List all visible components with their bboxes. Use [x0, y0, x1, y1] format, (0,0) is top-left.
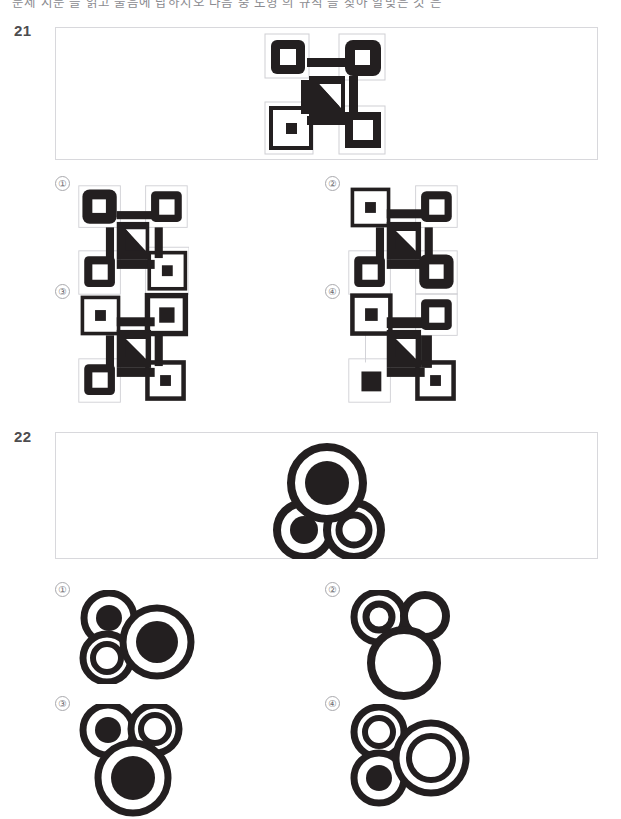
question-22-stem-box	[55, 432, 598, 559]
question-number-22: 22	[14, 428, 31, 445]
option-22-4-figure	[347, 704, 475, 819]
option-22-1-figure	[77, 590, 199, 684]
option-22-2-figure	[347, 590, 465, 700]
circles-option-22-2-svg	[347, 590, 465, 700]
circles-option-22-1-svg	[77, 590, 199, 684]
option-22-4-number: ④	[325, 696, 340, 711]
option-22-3-figure	[77, 704, 195, 819]
circles-option-22-3-svg	[77, 704, 195, 819]
circles-option-22-4-svg	[347, 704, 475, 819]
circles-figure-22-svg	[269, 441, 387, 559]
option-22-1-number: ①	[55, 582, 70, 597]
option-22-3-number: ③	[55, 696, 70, 711]
option-22-2-number: ②	[325, 582, 340, 597]
stem-figure-22	[269, 441, 387, 559]
